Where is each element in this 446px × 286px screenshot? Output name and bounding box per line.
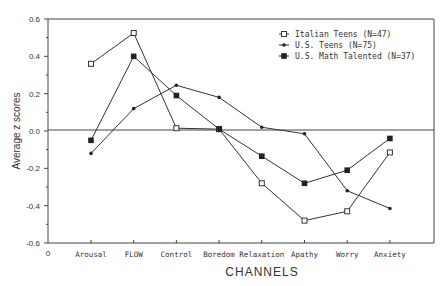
legend-entry: Italian Teens (N=47) — [295, 30, 391, 39]
dot-marker — [303, 132, 307, 136]
x-tick-label: FLOW — [125, 250, 144, 259]
x-tick-label: Arousal — [75, 250, 107, 259]
legend-entry: U.S. Math Talented (N=37) — [295, 52, 415, 61]
open-square-marker — [387, 150, 392, 155]
dot-marker — [345, 189, 349, 193]
origin-label: 0 — [46, 249, 51, 258]
open-square-marker — [89, 61, 94, 66]
filled-square-marker — [216, 126, 222, 132]
y-tick-label: -0.6 — [26, 239, 40, 248]
open-square-marker — [302, 218, 307, 223]
line-chart: 0.60.40.20.0-0.2-0.4-0.6 ArousalFLOWCont… — [0, 0, 446, 286]
filled-square-marker — [131, 54, 137, 60]
x-tick-label: Relaxation — [239, 250, 284, 259]
series-line — [91, 85, 390, 208]
y-tick-label: 0.2 — [29, 90, 41, 99]
y-axis-ticks: 0.60.40.20.0-0.2-0.4-0.6 — [26, 15, 48, 248]
x-tick-label: Worry — [336, 250, 359, 259]
series-line — [91, 33, 390, 221]
open-square-marker — [174, 126, 179, 131]
dot-marker — [132, 107, 136, 111]
y-tick-label: 0.4 — [29, 52, 41, 61]
legend: Italian Teens (N=47)U.S. Teens (N=75)U.S… — [279, 30, 415, 61]
y-axis-title: Average z scores — [11, 92, 22, 169]
y-tick-label: -0.2 — [26, 164, 40, 173]
filled-square-marker — [344, 167, 350, 173]
filled-square-marker — [387, 136, 393, 142]
filled-square-marker — [174, 93, 180, 99]
x-tick-label: Control — [161, 250, 193, 259]
x-axis-title: CHANNELS — [225, 265, 298, 279]
dot-marker — [388, 207, 392, 211]
y-tick-label: 0.6 — [29, 15, 41, 24]
series-line — [91, 56, 390, 183]
filled-square-marker — [281, 53, 287, 59]
dot-marker — [282, 43, 286, 47]
filled-square-marker — [302, 180, 308, 186]
dot-marker — [260, 125, 264, 129]
dot-marker — [217, 96, 221, 100]
open-square-marker — [131, 31, 136, 36]
open-square-marker — [282, 32, 287, 37]
x-tick-label: Boredom — [203, 250, 235, 259]
filled-square-marker — [259, 153, 265, 159]
series-lines — [91, 33, 390, 221]
open-square-marker — [259, 181, 264, 186]
x-tick-label: Anxiety — [374, 250, 406, 259]
x-tick-label: Apathy — [291, 250, 319, 259]
filled-square-marker — [88, 138, 94, 144]
dot-marker — [89, 152, 93, 156]
y-tick-label: -0.4 — [26, 202, 40, 211]
dot-marker — [175, 83, 179, 87]
legend-entry: U.S. Teens (N=75) — [295, 41, 377, 50]
y-tick-label: 0.0 — [29, 127, 41, 136]
open-square-marker — [345, 209, 350, 214]
